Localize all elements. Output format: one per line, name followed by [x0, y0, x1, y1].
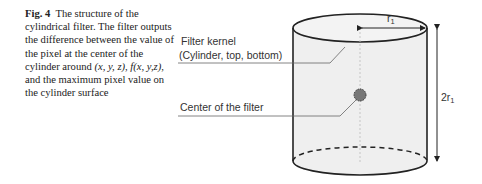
height-label: 2r1 — [441, 91, 455, 105]
kernel-label-2: (Cylinder, top, bottom) — [179, 49, 282, 61]
center-dot-icon — [354, 89, 366, 101]
radius-label: r1 — [387, 12, 395, 26]
center-label: Center of the filter — [180, 101, 264, 113]
cylinder-diagram: r1 2r1 Filter kernel (Cylinder, top, bot… — [0, 0, 482, 184]
kernel-label-1: Filter kernel — [181, 35, 236, 47]
